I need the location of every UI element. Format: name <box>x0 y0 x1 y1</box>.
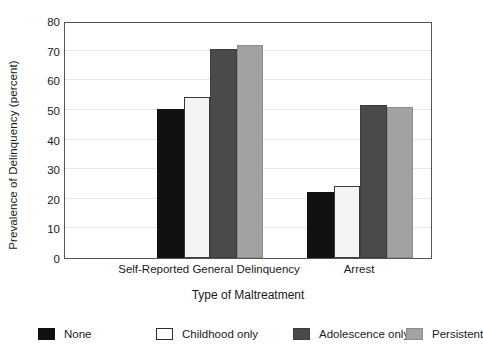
y-axis-title: Prevalence of Delinquency (percent) <box>0 26 26 284</box>
bar <box>307 192 334 258</box>
legend-swatch-icon <box>406 328 423 340</box>
y-tick-label: 80 <box>26 16 60 28</box>
legend-item: Adolescence only <box>293 326 409 342</box>
chart-legend: NoneChildhood onlyAdolescence onlyPersis… <box>38 326 442 344</box>
y-tick-label: 0 <box>26 253 60 265</box>
bar <box>387 107 414 258</box>
bar <box>360 105 387 258</box>
y-tick-label: 40 <box>26 135 60 147</box>
x-tick-label: Self-Reported General Delinquency <box>118 262 300 276</box>
legend-label: Adolescence only <box>319 328 409 340</box>
y-tick-label: 30 <box>26 164 60 176</box>
bar <box>157 109 184 258</box>
legend-item: Persistent <box>406 326 483 342</box>
legend-swatch-icon <box>38 328 55 340</box>
y-tick-label: 10 <box>26 223 60 235</box>
x-tick-label: Arrest <box>344 262 375 276</box>
y-tick-label: 20 <box>26 194 60 206</box>
plot-area <box>64 22 432 259</box>
bar <box>184 97 211 258</box>
legend-item: Childhood only <box>156 326 258 342</box>
bar <box>210 49 237 258</box>
legend-label: Persistent <box>432 328 483 340</box>
legend-item: None <box>38 326 92 342</box>
y-tick-label: 60 <box>26 75 60 87</box>
legend-swatch-icon <box>293 328 310 340</box>
x-axis-tick-labels: Self-Reported General DelinquencyArrest <box>64 262 432 278</box>
x-axis-title: Type of Maltreatment <box>64 288 432 302</box>
bar <box>334 186 361 258</box>
y-tick-label: 70 <box>26 46 60 58</box>
bars-layer <box>65 23 431 258</box>
legend-label: Childhood only <box>182 328 258 340</box>
y-tick-label: 50 <box>26 105 60 117</box>
y-axis-tick-labels: 01020304050607080 <box>26 14 60 260</box>
legend-swatch-icon <box>156 328 173 340</box>
legend-label: None <box>64 328 92 340</box>
bar <box>237 45 264 258</box>
